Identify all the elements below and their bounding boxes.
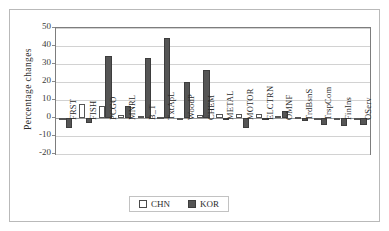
- bar-chn-elctrn: [256, 114, 262, 118]
- y-tick-label: 0: [23, 112, 51, 121]
- bar-chn-finins: [334, 118, 340, 120]
- y-tick-label: 30: [23, 58, 51, 67]
- bar-kor-metal: [223, 118, 229, 120]
- bar-kor-woodp: [184, 82, 190, 118]
- bar-kor-finins: [341, 118, 347, 126]
- bar-kor-chem: [203, 70, 209, 118]
- bar-kor-mnrl: [125, 106, 131, 118]
- bar-kor-fish: [86, 118, 92, 123]
- y-tick-label: 20: [23, 76, 51, 85]
- legend-label-kor: KOR: [200, 199, 219, 209]
- bar-chn-trdbsns: [295, 117, 301, 119]
- bars-layer: [56, 28, 370, 154]
- bar-chn-woodp: [177, 118, 183, 120]
- bar-chn-b_t: [138, 116, 144, 118]
- plot-area: [55, 27, 371, 155]
- bar-chn-omnf: [275, 116, 281, 118]
- bar-chn-motor: [236, 114, 242, 119]
- bar-chn-oserv: [354, 118, 360, 120]
- bar-kor-trspcom: [321, 118, 327, 125]
- bar-chn-fish: [79, 104, 85, 118]
- bar-chn-frst: [59, 118, 65, 120]
- y-tick-label: 50: [23, 22, 51, 31]
- legend-label-chn: CHN: [151, 199, 170, 209]
- bar-chn-trspcom: [314, 118, 320, 120]
- chart-figure: Percentage changes 50403020100-10-20 FRS…: [0, 0, 389, 231]
- legend-item-chn: CHN: [139, 199, 170, 209]
- y-tick-label: -10: [23, 130, 51, 139]
- bar-chn-mnrl: [118, 115, 124, 118]
- bar-kor-pcgo: [105, 56, 111, 118]
- bar-kor-elctrn: [262, 118, 268, 120]
- bar-chn-pcgo: [99, 106, 105, 118]
- bar-kor-omnf: [282, 111, 288, 118]
- legend-swatch-kor: [188, 200, 196, 208]
- legend-swatch-chn: [139, 200, 147, 208]
- bar-kor-trdbsns: [302, 118, 308, 121]
- bar-kor-motor: [243, 118, 249, 128]
- bar-kor-txtapl: [164, 38, 170, 118]
- y-tick-label: 10: [23, 94, 51, 103]
- bar-kor-oserv: [360, 118, 366, 125]
- chart-legend: CHN KOR: [129, 196, 229, 212]
- y-tick-label: -20: [23, 148, 51, 157]
- gridline: [56, 154, 370, 155]
- bar-chn-txtapl: [157, 117, 163, 119]
- y-tick-label: 40: [23, 40, 51, 49]
- bar-kor-b_t: [145, 58, 151, 118]
- bar-chn-chem: [197, 115, 203, 118]
- bar-kor-frst: [66, 118, 72, 128]
- bar-chn-metal: [216, 114, 222, 118]
- legend-item-kor: KOR: [188, 199, 219, 209]
